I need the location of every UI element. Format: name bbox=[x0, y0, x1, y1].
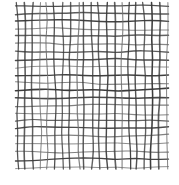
mesh-line-vertical bbox=[83, 3, 84, 170]
mesh-figure-root bbox=[0, 0, 179, 185]
mesh-grid-svg bbox=[0, 0, 179, 185]
